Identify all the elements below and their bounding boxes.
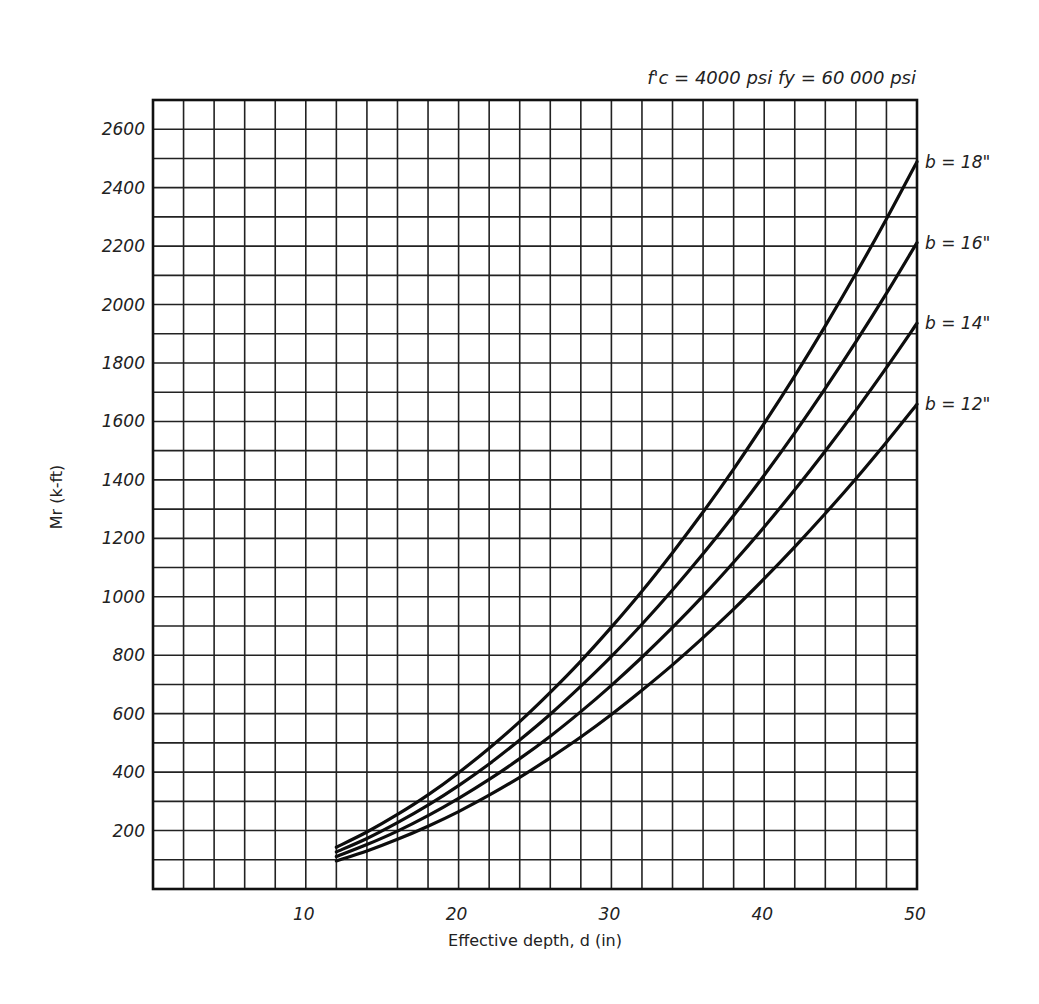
curves: [336, 162, 917, 861]
y-tick-label: 600: [113, 704, 145, 724]
y-tick-label: 1200: [102, 528, 145, 548]
grid: [153, 100, 917, 889]
curve-label-b-18: b = 18": [925, 152, 990, 172]
chart-svg: 2004006008001000120014001600180020002200…: [0, 0, 1039, 1004]
y-tick-label: 200: [113, 821, 145, 841]
x-axis-title: Effective depth, d (in): [448, 931, 622, 950]
y-tick-label: 2400: [102, 178, 145, 198]
y-tick-label: 2000: [102, 295, 145, 315]
x-tick-labels: 1020304050: [293, 904, 926, 924]
y-tick-label: 800: [113, 645, 145, 665]
legend: b = 18"b = 16"b = 14"b = 12": [925, 152, 990, 415]
curve-b-14: [336, 323, 917, 856]
y-tick-label: 1600: [102, 411, 145, 431]
y-tick-label: 2600: [102, 119, 145, 139]
y-tick-label: 400: [113, 762, 145, 782]
y-tick-label: 1400: [102, 470, 145, 490]
y-tick-labels: 2004006008001000120014001600180020002200…: [102, 119, 145, 840]
curve-b-12: [336, 404, 917, 861]
x-tick-label: 20: [446, 904, 468, 924]
chart: 2004006008001000120014001600180020002200…: [0, 0, 1039, 1004]
y-tick-label: 2200: [102, 236, 145, 256]
curve-label-b-14: b = 14": [925, 313, 990, 333]
x-tick-label: 50: [904, 904, 926, 924]
y-tick-label: 1000: [102, 587, 145, 607]
y-tick-label: 1800: [102, 353, 145, 373]
x-tick-label: 30: [599, 904, 621, 924]
x-tick-label: 40: [751, 904, 773, 924]
x-tick-label: 10: [293, 904, 315, 924]
plot-frame: [153, 100, 917, 889]
curve-b-18: [336, 162, 917, 848]
plot-border: [153, 100, 917, 889]
y-axis-title: Mr (k-ft): [47, 465, 66, 530]
curve-label-b-16: b = 16": [925, 233, 990, 253]
material-parameters-annotation: f'c = 4000 psi fy = 60 000 psi: [647, 67, 916, 88]
curve-label-b-12: b = 12": [925, 394, 990, 414]
